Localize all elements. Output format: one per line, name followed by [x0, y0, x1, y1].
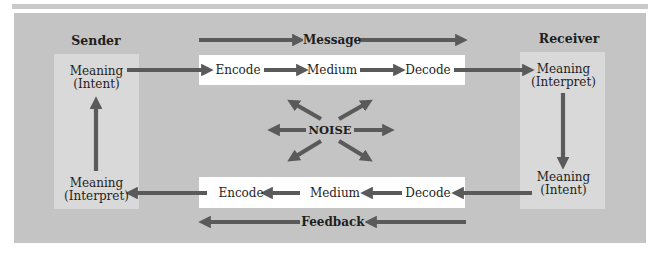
noise-arrow-up-left	[293, 103, 321, 119]
receiver-meaning-interpret: Meaning (Interpret)	[527, 63, 600, 89]
sender-title: Sender	[66, 34, 126, 47]
receiver-title: Receiver	[534, 32, 604, 45]
sender-meaning-intent: Meaning (Intent)	[60, 65, 133, 91]
sender-meaning-interpret-line2: (Interpret)	[60, 190, 133, 203]
noise-arrow-down-left	[293, 141, 321, 158]
forward-medium: Medium	[307, 64, 357, 77]
feedback-label: Feedback	[301, 216, 365, 229]
receiver-meaning-intent-line2: (Intent)	[527, 184, 600, 197]
sender-meaning-intent-line2: (Intent)	[60, 78, 133, 91]
noise-arrow-down-right	[339, 141, 367, 158]
forward-encode: Encode	[213, 64, 263, 77]
noise-arrow-up-right	[339, 103, 367, 119]
feedback-medium: Medium	[308, 187, 362, 200]
feedback-encode: Encode	[216, 187, 266, 200]
receiver-meaning-interpret-line2: (Interpret)	[527, 76, 600, 89]
feedback-decode: Decode	[403, 187, 453, 200]
forward-decode: Decode	[403, 64, 453, 77]
receiver-meaning-intent: Meaning (Intent)	[527, 171, 600, 197]
message-label: Message	[303, 34, 357, 47]
noise-label: NOISE	[306, 124, 354, 137]
sender-meaning-interpret: Meaning (Interpret)	[60, 177, 133, 203]
